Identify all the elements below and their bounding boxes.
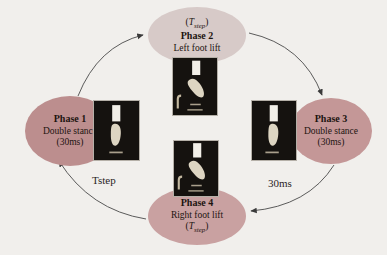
robot-foot-double-stance-photo <box>251 100 297 161</box>
robot-foot-lifted-icon <box>173 58 217 115</box>
arrow-phase3-to-phase4 <box>251 165 334 211</box>
arrow-phase1-to-phase2 <box>78 35 143 96</box>
robot-foot-right-lift-photo <box>173 140 219 197</box>
tstep-subscript: step <box>194 22 205 30</box>
phase3-node: Phase 3 Double stance (30ms) <box>290 98 372 164</box>
gait-cycle-diagram: Tstep 30ms Phase 1 Double stance (30ms) … <box>0 0 387 255</box>
robot-foot-lifted-icon <box>174 141 218 196</box>
phase4-tstep: (Tstep) <box>186 221 209 234</box>
phase4-desc: Right foot lift <box>171 210 223 222</box>
phase1-duration: (30ms) <box>57 137 84 149</box>
tstep-subscript: step <box>194 226 205 234</box>
phase4-title: Phase 4 <box>181 197 214 209</box>
phase2-desc: Left foot lift <box>174 43 221 55</box>
robot-foot-standing-icon <box>252 101 296 160</box>
phase3-duration: (30ms) <box>318 137 345 149</box>
tstep-close-paren: ) <box>205 17 208 27</box>
tstep-close-paren: ) <box>205 221 208 231</box>
robot-foot-left-lift-photo <box>172 57 218 116</box>
arrow-label-30ms: 30ms <box>268 177 292 189</box>
phase3-desc: Double stance <box>304 126 358 138</box>
robot-foot-standing-icon <box>94 101 139 160</box>
arrow-label-tstep: Tstep <box>92 174 116 186</box>
robot-foot-double-stance-photo <box>93 100 140 161</box>
arrow-phase4-to-phase1 <box>59 161 146 219</box>
phase1-title: Phase 1 <box>54 113 87 125</box>
phase2-node: (Tstep) Phase 2 Left foot lift <box>148 7 246 64</box>
arrow-phase2-to-phase3 <box>249 33 322 95</box>
phase2-tstep: (Tstep) <box>186 17 209 30</box>
phase1-desc: Double stance <box>43 126 97 138</box>
phase3-title: Phase 3 <box>315 113 348 125</box>
phase2-title: Phase 2 <box>181 30 214 42</box>
